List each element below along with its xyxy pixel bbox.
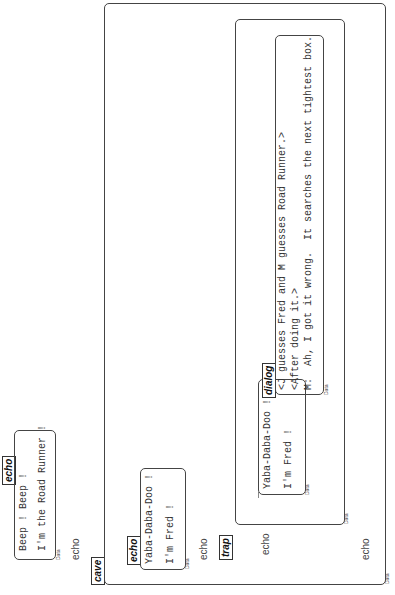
dialog-box: <J guesses Fred and M guesses Road Runne…: [275, 35, 324, 395]
fred-line-1: Yaba-Daba-Doo !: [144, 474, 155, 564]
echo-text: echo: [360, 538, 371, 560]
data-label: Data: [184, 558, 190, 569]
data-label: Data: [384, 573, 390, 584]
echo-text: echo: [70, 538, 81, 560]
data-label: Data: [343, 513, 349, 524]
dialog-line-2: <After doing it.>: [290, 288, 301, 390]
fred-line-1: Yaba-Daba-Doo !: [262, 399, 273, 489]
echo-text: echo: [260, 533, 271, 555]
dialog-line-3: M: Ah, I got it wrong. It searches the n…: [303, 36, 314, 390]
echo-line-2: I'm the Road Runner !: [37, 425, 48, 551]
data-label: Data: [323, 384, 329, 395]
dialog-tab-label: dialog: [262, 363, 276, 398]
dialog-line-1: <J guesses Fred and M guesses Road Runne…: [277, 132, 288, 390]
cave-echo-tab-label: echo: [127, 536, 141, 565]
echo-line-1: Beep ! Beep !: [18, 473, 29, 551]
fred-line-2: I'm Fred !: [165, 504, 176, 564]
fred-line-2: I'm Fred !: [283, 429, 294, 489]
fred-echo-box: Yaba-Daba-Doo ! I'm Fred !: [140, 468, 186, 570]
diagram-canvas: echo Beep ! Beep ! I'm the Road Runner !…: [0, 0, 395, 595]
trap-tab-label: trap: [219, 535, 233, 560]
echo-text: echo: [198, 538, 209, 560]
cave-tab-label: cave: [91, 557, 105, 585]
data-label: Data: [55, 549, 61, 560]
road-runner-echo-box: Beep ! Beep ! I'm the Road Runner !: [14, 430, 56, 560]
data-label: Data: [304, 484, 310, 495]
